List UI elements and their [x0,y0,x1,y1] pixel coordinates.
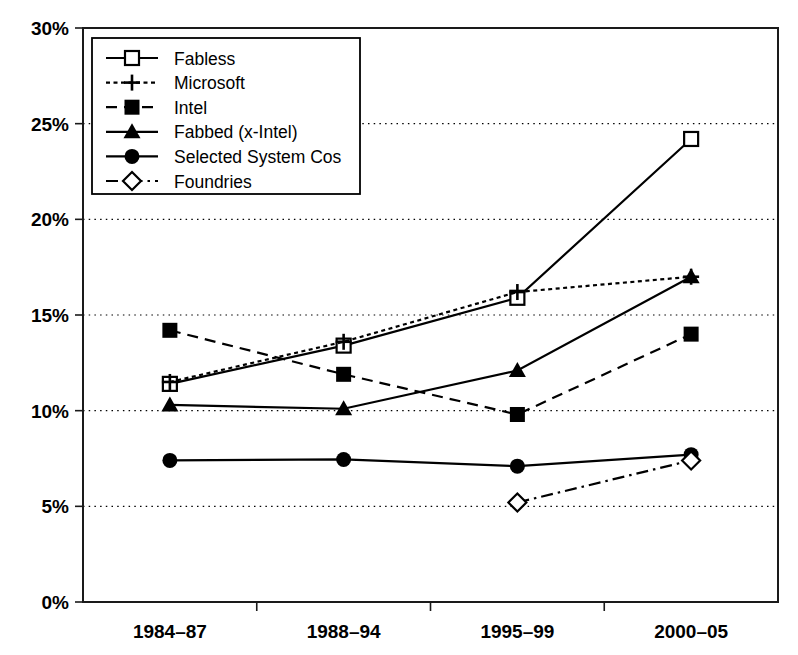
y-axis-label-10%: 10% [31,401,69,422]
y-axis-label-0%: 0% [42,592,70,613]
datapoint-marker [509,362,526,377]
series-fabbed-x-intel [161,268,699,415]
datapoint-marker [161,396,178,411]
datapoint-marker [336,367,351,382]
series-line [170,330,691,414]
legend-marker-open-square-icon [125,51,139,65]
legend-label: Intel [174,98,207,118]
legend-marker-filled-square-icon [125,100,140,115]
chart-container: 0%5%10%15%20%25%30% 1984–871988–941995–9… [0,0,798,655]
legend-label: Microsoft [174,73,245,93]
datapoint-marker [508,494,526,512]
y-axis-label-5%: 5% [42,496,70,517]
x-axis-label-1: 1988–94 [307,621,381,642]
y-axis-label-20%: 20% [31,209,69,230]
datapoint-marker [336,452,351,467]
datapoint-marker [684,132,698,146]
datapoint-marker [162,323,177,338]
datapoint-marker [510,407,525,422]
y-axis-tick-labels: 0%5%10%15%20%25%30% [31,18,69,613]
x-axis-label-0: 1984–87 [133,621,207,642]
series-line [517,460,691,502]
x-axis-label-3: 2000–05 [654,621,728,642]
series-line [170,455,691,466]
legend-label: Selected System Cos [174,147,342,167]
y-axis-label-30%: 30% [31,18,69,39]
chart-legend: FablessMicrosoftIntelFabbed (x-Intel)Sel… [92,38,360,194]
x-axis-tick-labels: 1984–871988–941995–992000–05 [133,621,729,642]
legend-marker-filled-circle-icon [125,149,140,164]
legend-label: Fabless [174,49,236,69]
series-selected-system-cos [162,447,698,473]
legend-label: Foundries [174,172,252,192]
datapoint-marker [162,453,177,468]
datapoint-marker [684,327,699,342]
series-microsoft [162,269,699,390]
datapoint-marker [510,459,525,474]
line-chart: 0%5%10%15%20%25%30% 1984–871988–941995–9… [0,0,798,655]
x-axis-label-2: 1995–99 [480,621,554,642]
legend-label: Fabbed (x-Intel) [174,122,298,142]
y-axis-label-15%: 15% [31,305,69,326]
y-axis-label-25%: 25% [31,114,69,135]
series-line [170,277,691,409]
